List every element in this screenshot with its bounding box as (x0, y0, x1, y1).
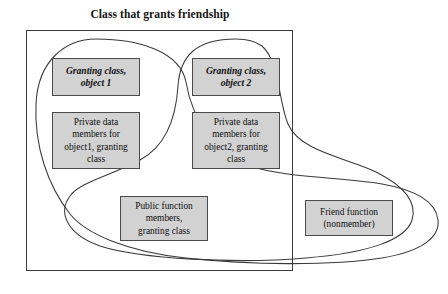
node-granting-class-object-2: Granting class, object 2 (192, 58, 280, 96)
node-private-data-object-1-line4: class (87, 154, 105, 164)
node-public-function-members: Public function members, granting class (120, 196, 208, 241)
node-granting-class-object-2-line2: object 2 (221, 77, 252, 88)
node-friend-function-line2: (nonmember) (323, 219, 374, 229)
node-private-data-object-1-line3: object1, granting (64, 142, 128, 152)
node-public-function-members-label: Public function members, granting class (124, 200, 204, 237)
node-private-data-object-1-label: Private data members for object1, granti… (56, 116, 136, 166)
node-private-data-object-1-line1: Private data (74, 117, 119, 127)
diagram-title: Class that grants friendship (0, 8, 320, 20)
node-private-data-object-2-line3: object2, granting (204, 142, 268, 152)
node-friend-function-label: Friend function (nonmember) (309, 206, 389, 231)
node-private-data-object-1: Private data members for object1, granti… (52, 112, 140, 169)
node-private-data-object-2-label: Private data members for object2, granti… (196, 116, 276, 166)
node-private-data-object-2-line1: Private data (214, 117, 259, 127)
node-private-data-object-2-line2: members for (212, 129, 260, 139)
node-granting-class-object-1-label: Granting class, object 1 (56, 65, 136, 90)
node-granting-class-object-1: Granting class, object 1 (52, 58, 140, 96)
node-private-data-object-2: Private data members for object2, granti… (192, 112, 280, 169)
diagram-page: Class that grants friendship Granting cl… (0, 0, 448, 294)
node-granting-class-object-2-label: Granting class, object 2 (196, 65, 276, 90)
node-friend-function-line1: Friend function (320, 207, 378, 217)
node-granting-class-object-1-line1: Granting class, (66, 65, 126, 76)
node-public-function-members-line1: Public function (135, 201, 193, 211)
node-public-function-members-line2: members, (146, 213, 183, 223)
node-friend-function: Friend function (nonmember) (305, 200, 393, 236)
node-granting-class-object-2-line1: Granting class, (206, 65, 266, 76)
node-private-data-object-1-line2: members for (72, 129, 120, 139)
node-private-data-object-2-line4: class (227, 154, 245, 164)
node-public-function-members-line3: granting class (138, 226, 190, 236)
node-granting-class-object-1-line2: object 1 (81, 77, 112, 88)
